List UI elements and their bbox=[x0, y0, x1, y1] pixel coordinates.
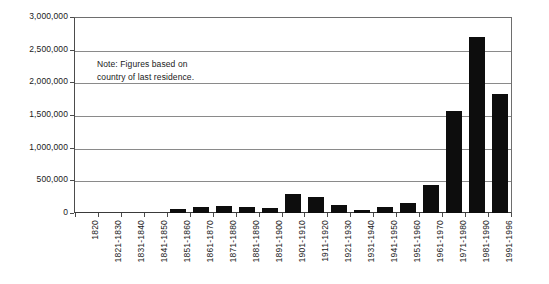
y-axis-label: 1,000,000 bbox=[0, 142, 68, 152]
bar-slot[interactable] bbox=[190, 18, 213, 213]
x-axis-label: 1841-1850 bbox=[159, 220, 169, 282]
x-axis-ticks bbox=[75, 213, 511, 218]
x-axis-tick bbox=[511, 213, 512, 217]
bar-slot[interactable] bbox=[75, 18, 98, 213]
x-axis-label: 1961-1970 bbox=[435, 220, 445, 282]
bar-slot[interactable] bbox=[442, 18, 465, 213]
x-axis-tick bbox=[190, 213, 191, 217]
x-axis-tick bbox=[465, 213, 466, 217]
bar-slot[interactable] bbox=[259, 18, 282, 213]
y-axis-label: 0 bbox=[0, 207, 68, 217]
bar-slot[interactable] bbox=[304, 18, 327, 213]
bar[interactable] bbox=[400, 203, 416, 213]
x-axis-tick bbox=[213, 213, 214, 217]
x-axis-label: 1820 bbox=[90, 220, 100, 282]
bar-slot[interactable] bbox=[488, 18, 511, 213]
x-axis-tick bbox=[259, 213, 260, 217]
bar[interactable] bbox=[446, 111, 462, 213]
bar-slot[interactable] bbox=[213, 18, 236, 213]
bar-slot[interactable] bbox=[396, 18, 419, 213]
x-axis-tick bbox=[236, 213, 237, 217]
bar-slot[interactable] bbox=[350, 18, 373, 213]
y-axis-label: 2,500,000 bbox=[0, 44, 68, 54]
bar-slot[interactable] bbox=[236, 18, 259, 213]
x-axis-tick bbox=[304, 213, 305, 217]
x-axis-label: 1851-1860 bbox=[182, 220, 192, 282]
bar-slot[interactable] bbox=[419, 18, 442, 213]
bar-slot[interactable] bbox=[465, 18, 488, 213]
x-axis-tick bbox=[75, 213, 76, 217]
x-axis-label: 1971-1980 bbox=[458, 220, 468, 282]
x-axis-label: 1821-1830 bbox=[113, 220, 123, 282]
figures-note: Note: Figures based on country of last r… bbox=[97, 58, 194, 84]
figures-note-line-2: country of last residence. bbox=[97, 71, 194, 84]
y-axis-tick bbox=[70, 213, 74, 214]
x-axis-tick bbox=[121, 213, 122, 217]
y-axis-label: 3,000,000 bbox=[0, 11, 68, 21]
x-axis-tick bbox=[373, 213, 374, 217]
bar-slot[interactable] bbox=[98, 18, 121, 213]
bar[interactable] bbox=[216, 206, 232, 213]
x-axis-label: 1911-1920 bbox=[320, 220, 330, 282]
y-axis-label: 1,500,000 bbox=[0, 109, 68, 119]
y-axis: 0500,0001,000,0001,500,0002,000,0002,500… bbox=[0, 0, 68, 230]
x-axis-label: 1881-1890 bbox=[251, 220, 261, 282]
x-axis-tick bbox=[488, 213, 489, 217]
x-axis-label: 1861-1870 bbox=[205, 220, 215, 282]
x-axis-label: 1951-1960 bbox=[412, 220, 422, 282]
bar-slot[interactable] bbox=[121, 18, 144, 213]
x-axis-tick bbox=[419, 213, 420, 217]
y-axis-label: 500,000 bbox=[0, 174, 68, 184]
x-axis-tick bbox=[98, 213, 99, 217]
figures-note-line-1: Note: Figures based on bbox=[97, 58, 194, 71]
x-axis-tick bbox=[167, 213, 168, 217]
bar-slot[interactable] bbox=[327, 18, 350, 213]
immigration-bar-chart: 0500,0001,000,0001,500,0002,000,0002,500… bbox=[0, 0, 549, 284]
x-axis-label: 1981-1990 bbox=[481, 220, 491, 282]
bar[interactable] bbox=[423, 185, 439, 213]
bar-slot[interactable] bbox=[144, 18, 167, 213]
x-axis-tick bbox=[282, 213, 283, 217]
bar[interactable] bbox=[469, 37, 485, 213]
bar[interactable] bbox=[308, 197, 324, 213]
x-axis-tick bbox=[396, 213, 397, 217]
bar-slot[interactable] bbox=[282, 18, 305, 213]
bar[interactable] bbox=[492, 94, 508, 213]
x-axis-tick bbox=[442, 213, 443, 217]
bar[interactable] bbox=[285, 194, 301, 213]
x-axis-label: 1921-1930 bbox=[343, 220, 353, 282]
x-axis-tick bbox=[327, 213, 328, 217]
x-axis-labels: 18201821-18301831-18401841-18501851-1860… bbox=[75, 220, 511, 282]
x-axis-label: 1941-1950 bbox=[389, 220, 399, 282]
x-axis-tick bbox=[350, 213, 351, 217]
bars-layer bbox=[75, 18, 511, 213]
x-axis-label: 1831-1840 bbox=[136, 220, 146, 282]
y-axis-label: 2,000,000 bbox=[0, 76, 68, 86]
x-axis-label: 1901-1910 bbox=[297, 220, 307, 282]
x-axis-tick bbox=[144, 213, 145, 217]
bar-slot[interactable] bbox=[373, 18, 396, 213]
x-axis-label: 1931-1940 bbox=[366, 220, 376, 282]
x-axis-label: 1871-1880 bbox=[228, 220, 238, 282]
bar[interactable] bbox=[331, 205, 347, 213]
x-axis-label: 1891-1900 bbox=[274, 220, 284, 282]
bar-slot[interactable] bbox=[167, 18, 190, 213]
x-axis-label: 1991-1996 bbox=[504, 220, 514, 282]
